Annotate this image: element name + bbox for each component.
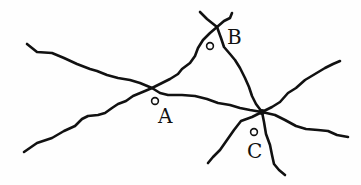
point-c-marker — [251, 129, 258, 136]
road-c-down — [262, 112, 285, 175]
junction-c-dot — [259, 109, 265, 115]
label-b: B — [227, 27, 242, 47]
road-c-upper-right — [262, 61, 340, 112]
point-b-marker — [207, 43, 214, 50]
road-c-lower-right — [262, 112, 348, 137]
road-a-to-b — [24, 27, 217, 152]
label-a: A — [158, 106, 172, 126]
diagram-canvas: A B C — [0, 0, 361, 185]
label-c: C — [247, 141, 262, 161]
road-b-top-left — [200, 12, 217, 27]
road-network — [0, 0, 361, 185]
road-left-upper — [27, 44, 152, 88]
